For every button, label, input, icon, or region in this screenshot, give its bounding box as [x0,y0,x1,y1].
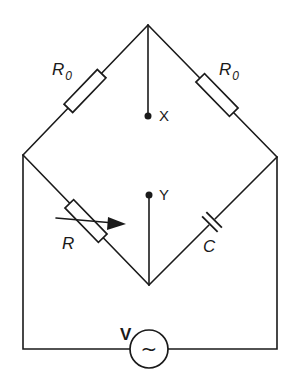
label-capacitor: C [203,237,216,256]
ac-source: ~ [130,330,168,368]
terminal-x-dot [145,113,152,120]
wire-right-to-source [168,157,277,349]
label-terminal-x: X [159,107,169,124]
ac-sine-icon: ~ [141,337,158,361]
label-r0-right: R0 [219,60,239,83]
bridge-circuit-diagram: R0 R0 R C X Y ~ V [0,0,294,375]
terminal-y-dot [146,192,153,199]
label-r-variable: R [62,234,74,253]
label-source-v: V [120,325,132,344]
label-r0-left: R0 [52,60,72,83]
wire-left-to-source [23,155,130,349]
label-terminal-y: Y [159,186,169,203]
